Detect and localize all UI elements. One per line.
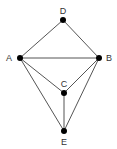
nodes-group [17, 17, 102, 134]
node-label-c: C [61, 79, 68, 89]
edge-a-e [20, 58, 64, 131]
node-label-d: D [60, 6, 67, 16]
node-c [61, 90, 67, 96]
labels-group: DABCE [6, 6, 112, 147]
edges-group [20, 20, 99, 131]
node-e [61, 128, 67, 134]
node-d [60, 17, 66, 23]
node-label-e: E [61, 137, 67, 147]
node-a [17, 55, 23, 61]
edge-a-c [20, 58, 64, 93]
graph-diagram: DABCE [0, 0, 117, 149]
edge-b-e [64, 58, 99, 131]
node-label-a: A [6, 53, 12, 63]
node-b [96, 55, 102, 61]
edge-d-b [63, 20, 99, 58]
edge-d-a [20, 20, 63, 58]
node-label-b: B [106, 53, 112, 63]
edge-b-c [64, 58, 99, 93]
